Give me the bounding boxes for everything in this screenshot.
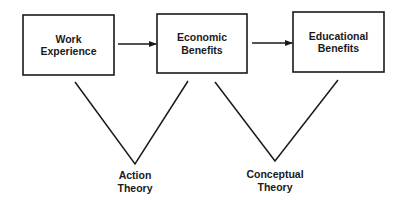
label-conceptual-theory-line2: Theory bbox=[235, 181, 315, 194]
label-economic-benefits-line2: Benefits bbox=[157, 44, 247, 57]
label-economic-benefits: Economic Benefits bbox=[157, 14, 247, 73]
v-action-theory bbox=[75, 81, 188, 164]
label-action-theory-line2: Theory bbox=[100, 182, 170, 195]
label-action-theory: Action Theory bbox=[100, 169, 170, 194]
label-educational-benefits-line1: Educational bbox=[293, 30, 384, 43]
label-conceptual-theory-line1: Conceptual bbox=[235, 168, 315, 181]
label-conceptual-theory: Conceptual Theory bbox=[235, 168, 315, 193]
label-work-experience: Work Experience bbox=[23, 15, 114, 75]
label-educational-benefits: Educational Benefits bbox=[293, 12, 384, 72]
label-work-experience-line2: Experience bbox=[23, 45, 114, 58]
label-action-theory-line1: Action bbox=[100, 169, 170, 182]
label-economic-benefits-line1: Economic bbox=[157, 31, 247, 44]
label-work-experience-line1: Work bbox=[23, 33, 114, 46]
v-conceptual-theory bbox=[215, 80, 338, 161]
label-educational-benefits-line2: Benefits bbox=[293, 42, 384, 55]
